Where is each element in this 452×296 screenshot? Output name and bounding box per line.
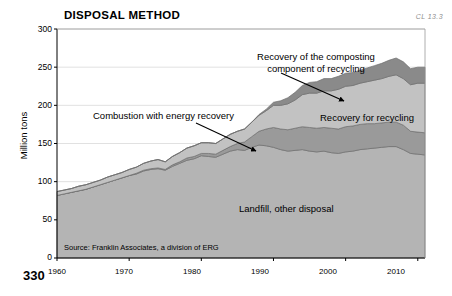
annotation-combustion: Combustion with energy recovery — [93, 110, 234, 122]
source-note: Source: Franklin Associates, a division … — [64, 243, 219, 252]
annotation-landfill: Landfill, other disposal — [239, 203, 334, 215]
annotation-recycling: Recovery for recycling — [320, 112, 414, 124]
annotation-composting: Recovery of the composting component of … — [236, 51, 396, 74]
chart-figure: DISPOSAL METHOD CL 13.3 330 Million tons… — [0, 0, 452, 296]
